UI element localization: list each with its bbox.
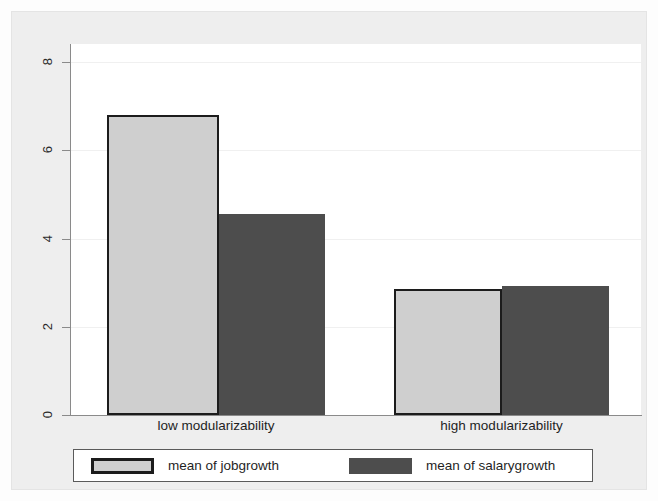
y-axis-tick — [62, 327, 70, 328]
graph-frame: 02468 low modularizabilityhigh modulariz… — [11, 11, 647, 490]
legend-entry-salarygrowth: mean of salarygrowth — [349, 458, 555, 474]
light-swatch-icon — [91, 458, 154, 474]
bar-salarygrowth — [502, 286, 609, 415]
bar-jobgrowth — [394, 289, 502, 415]
y-axis-tick — [62, 62, 70, 63]
bar-salarygrowth — [219, 214, 325, 415]
y-axis-tick — [62, 150, 70, 151]
y-axis-tick — [62, 239, 70, 240]
chart-screenshot: 02468 low modularizabilityhigh modulariz… — [0, 0, 658, 501]
gridline — [71, 62, 641, 63]
legend-label-salarygrowth: mean of salarygrowth — [426, 458, 555, 473]
x-axis-line — [70, 415, 642, 416]
legend-label-jobgrowth: mean of jobgrowth — [168, 458, 279, 473]
y-axis-tick-label: 0 — [41, 404, 54, 426]
y-axis-tick-label: 4 — [41, 227, 54, 249]
dark-swatch-icon — [349, 458, 412, 474]
y-axis-tick-label: 2 — [41, 315, 54, 337]
y-axis-tick-label: 8 — [41, 51, 54, 73]
y-axis-tick-label: 6 — [41, 139, 54, 161]
y-axis-tick — [62, 415, 70, 416]
chart-legend: mean of jobgrowth mean of salarygrowth — [73, 449, 593, 482]
category-label: low modularizability — [107, 418, 325, 433]
legend-entry-jobgrowth: mean of jobgrowth — [91, 458, 279, 474]
category-label: high modularizability — [394, 418, 609, 433]
bar-jobgrowth — [107, 115, 219, 415]
y-axis-line — [70, 44, 71, 416]
